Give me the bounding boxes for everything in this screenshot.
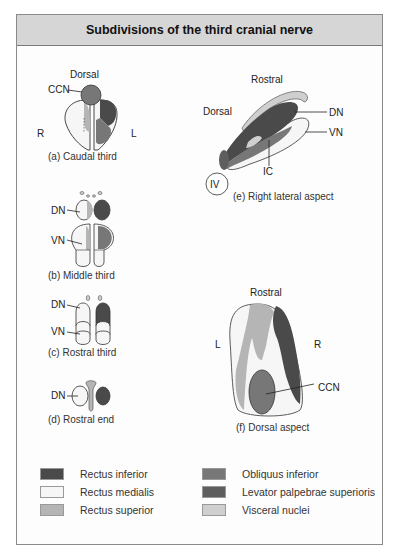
legend-label: Visceral nuclei: [242, 504, 310, 516]
legend-label: Rectus superior: [80, 504, 154, 516]
label-vn: VN: [51, 326, 65, 337]
label-ccn: CCN: [48, 84, 70, 95]
panel-f-dorsal-aspect: Rostral L R CCN (f) Dorsal aspect: [215, 287, 340, 433]
label-vn: VN: [51, 235, 65, 246]
legend-item-visceral-nuclei: Visceral nuclei: [202, 503, 310, 517]
panel-e-right-lateral: Rostral Dorsal DN VN IC IV (e) Right lat…: [203, 74, 343, 202]
caption-c: (c) Rostral third: [48, 347, 116, 358]
label-l: L: [215, 339, 221, 350]
label-r: R: [314, 339, 321, 350]
legend-label: Rectus inferior: [80, 468, 148, 480]
panel-a-caudal-third: Dorsal CCN R L (a) Caudal third: [37, 69, 137, 162]
label-ic: IC: [263, 166, 273, 177]
caption-e: (e) Right lateral aspect: [233, 191, 334, 202]
caption-f: (f) Dorsal aspect: [236, 422, 310, 433]
swatch-obliquus-inferior: [202, 468, 226, 480]
swatch-levator-palpebrae: [202, 486, 226, 498]
caption-b: (b) Middle third: [48, 270, 115, 281]
label-dn: DN: [51, 390, 65, 401]
legend-label: Rectus medialis: [80, 486, 154, 498]
legend-label: Obliquus inferior: [242, 468, 318, 480]
caption-a: (a) Caudal third: [48, 151, 117, 162]
label-ccn: CCN: [318, 382, 340, 393]
label-rostral: Rostral: [250, 287, 282, 298]
legend-item-rectus-inferior: Rectus inferior: [40, 467, 148, 481]
swatch-visceral-nuclei: [202, 504, 226, 516]
swatch-rectus-medialis: [40, 486, 64, 498]
label-dorsal: Dorsal: [203, 106, 232, 117]
label-dn: DN: [329, 107, 343, 118]
label-dn: DN: [51, 205, 65, 216]
swatch-rectus-inferior: [40, 468, 64, 480]
swatch-rectus-superior: [40, 504, 64, 516]
panel-c-rostral-third: DN VN (c) Rostral third: [48, 296, 116, 359]
caption-d: (d) Rostral end: [48, 414, 114, 425]
label-rostral: Rostral: [251, 74, 283, 85]
label-iv: IV: [210, 179, 220, 190]
label-r: R: [37, 128, 44, 139]
legend-item-levator-palpebrae: Levator palpebrae superioris: [202, 485, 375, 499]
panel-d-rostral-end: DN (d) Rostral end: [48, 381, 114, 425]
legend-item-rectus-superior: Rectus superior: [40, 503, 154, 517]
label-dorsal: Dorsal: [70, 69, 99, 80]
label-l: L: [131, 128, 137, 139]
label-vn: VN: [329, 127, 343, 138]
legend-item-rectus-medialis: Rectus medialis: [40, 485, 154, 499]
panel-b-middle-third: DN VN (b) Middle third: [48, 192, 115, 282]
label-dn: DN: [51, 299, 65, 310]
legend-label: Levator palpebrae superioris: [242, 486, 375, 498]
legend-item-obliquus-inferior: Obliquus inferior: [202, 467, 318, 481]
